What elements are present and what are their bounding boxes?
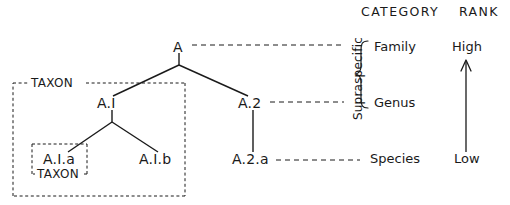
- tree-node-A[interactable]: A: [173, 40, 183, 54]
- taxonomy-hierarchy-diagram: CATEGORY RANK A A.I A.2 A.I.a A.I.b A.2.…: [0, 0, 510, 205]
- tree-node-A2a[interactable]: A.2.a: [232, 152, 269, 166]
- supraspecific-vertical-label: Supraspecific: [352, 37, 364, 120]
- outer-taxon-box-label: TAXON: [29, 77, 75, 89]
- rank-arrow: [461, 60, 471, 152]
- tree-node-A1b[interactable]: A.I.b: [139, 152, 171, 166]
- category-genus: Genus: [374, 96, 415, 109]
- rank-high: High: [452, 40, 482, 53]
- inner-taxon-box-label: TAXON: [35, 168, 81, 180]
- category-family: Family: [374, 40, 416, 53]
- tree-node-A1a[interactable]: A.I.a: [43, 152, 75, 166]
- rank-low: Low: [454, 152, 480, 165]
- category-column-header: CATEGORY: [361, 6, 439, 19]
- tree-node-A2[interactable]: A.2: [238, 96, 261, 110]
- category-species: Species: [370, 152, 420, 165]
- tree-node-A1[interactable]: A.I: [97, 96, 116, 110]
- rank-column-header: RANK: [459, 6, 499, 19]
